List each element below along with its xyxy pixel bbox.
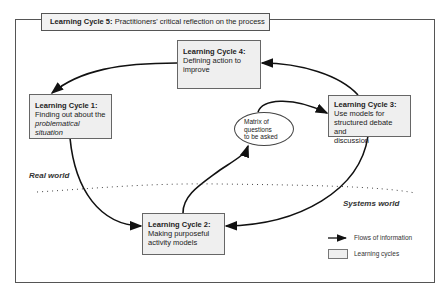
cycle-2-line2: activity models: [148, 238, 197, 247]
legend-cycles-label: Learning cycles: [354, 250, 399, 257]
ellipse-line1: Matrix of: [244, 118, 269, 125]
cycle-4-line1: Defining action to: [183, 56, 241, 65]
cycle-1-line1: Finding out about the: [35, 110, 105, 119]
legend-flows-label: Flows of information: [354, 234, 412, 241]
cycle-4-title: Learning Cycle 4:: [183, 47, 255, 56]
legend-cycle-swatch: [328, 249, 348, 259]
learning-cycle-1-box: Learning Cycle 1: Finding out about the …: [29, 94, 112, 139]
matrix-of-questions-ellipse: Matrix of questions to be asked: [234, 112, 294, 146]
real-world-label: Real world: [29, 171, 69, 180]
cycle-1-title: Learning Cycle 1:: [35, 101, 106, 110]
ellipse-line3: to be asked: [244, 133, 278, 140]
cycle-3-line1: Use models for: [334, 109, 384, 118]
learning-cycle-2-box: Learning Cycle 2: Making purposeful acti…: [142, 213, 225, 255]
cycle-2-line1: Making purposeful: [148, 229, 209, 238]
systems-world-label: Systems world: [343, 199, 399, 208]
learning-cycle-3-box: Learning Cycle 3: Use models for structu…: [328, 95, 411, 137]
cycle-3-title: Learning Cycle 3:: [334, 100, 405, 109]
header-text: Practitioners' critical reflection on th…: [115, 17, 265, 26]
learning-cycle-5-header: Learning Cycle 5: Practitioners' critica…: [41, 13, 270, 31]
cycle-1-line2: problematical situation: [35, 119, 80, 137]
learning-cycle-4-box: Learning Cycle 4: Defining action to imp…: [177, 40, 261, 89]
cycle-2-title: Learning Cycle 2:: [148, 220, 219, 229]
ellipse-line2: questions: [244, 126, 272, 133]
cycle-3-line2: structured debate and: [334, 118, 392, 136]
cycle-4-line2: improve: [183, 65, 210, 74]
cycle-3-line3: discussion: [334, 136, 369, 145]
header-bold-label: Learning Cycle 5:: [50, 17, 113, 26]
